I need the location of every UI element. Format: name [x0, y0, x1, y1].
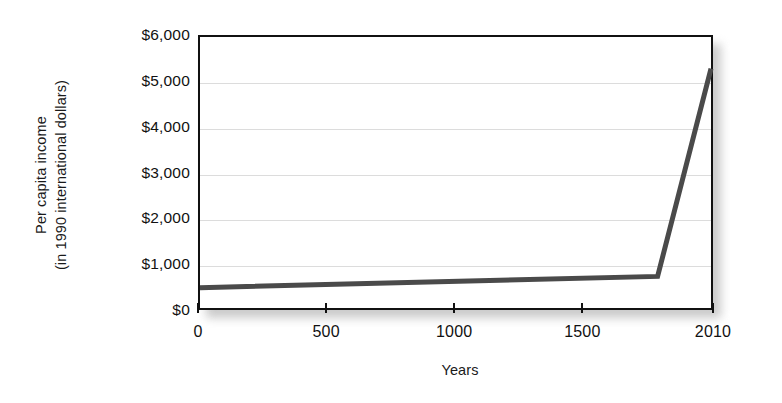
- x-axis-tick-label: 1500: [522, 322, 642, 342]
- x-axis-tick-mark: [197, 303, 199, 313]
- x-axis-ticks: 0500100015002010: [0, 0, 782, 403]
- x-axis-tick-label: 0: [138, 322, 258, 342]
- x-axis-tick-label: 500: [266, 322, 386, 342]
- chart-figure: Per capita income (in 1990 international…: [0, 0, 782, 403]
- x-axis-title-label: Years: [441, 362, 478, 378]
- x-axis-tick-label: 1000: [394, 322, 514, 342]
- x-axis-tick-mark: [581, 303, 583, 313]
- x-axis-tick-label: 2010: [653, 322, 773, 342]
- x-axis-tick-mark: [325, 303, 327, 313]
- x-axis-title: Years: [0, 362, 782, 378]
- x-axis-tick-mark: [453, 303, 455, 313]
- x-axis-tick-mark: [712, 303, 714, 313]
